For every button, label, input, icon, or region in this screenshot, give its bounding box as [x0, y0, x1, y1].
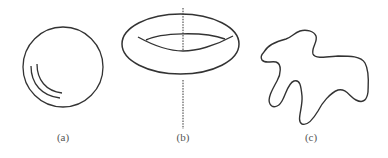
blob-outline [261, 30, 368, 124]
panel-a-sphere [23, 27, 103, 107]
panel-b-label: (b) [177, 131, 190, 143]
torus-outer-edge [122, 14, 239, 74]
panel-c-label: (c) [305, 131, 317, 143]
panel-a-label: (a) [57, 131, 69, 143]
torus-hole-upper-edge [146, 34, 225, 40]
panel-c-blob [261, 30, 368, 124]
figure: (a) (b) (c) [0, 0, 388, 158]
panel-b-torus [122, 8, 239, 129]
sphere-highlight-inner [37, 64, 62, 93]
sphere-outline [23, 27, 103, 107]
sphere-highlight-outer [31, 66, 60, 98]
